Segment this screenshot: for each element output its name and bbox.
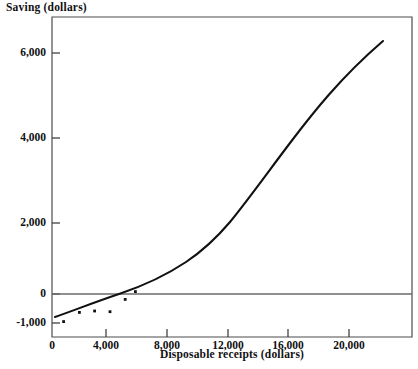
data-point	[78, 311, 81, 314]
saving-curve	[55, 41, 383, 317]
data-point	[134, 290, 137, 293]
y-tick-label-4000: 4,000	[2, 131, 46, 143]
data-point	[109, 310, 112, 313]
data-point	[124, 298, 127, 301]
x-tick-marks	[106, 329, 349, 337]
y-tick-marks	[52, 53, 60, 323]
y-tick-label-0: 0	[2, 287, 46, 299]
plot-area	[0, 0, 418, 369]
data-point	[93, 310, 96, 313]
x-axis-title: Disposable receipts (dollars)	[52, 348, 412, 360]
y-tick-label-minus-1000: -1,000	[0, 316, 46, 328]
y-tick-label-6000: 6,000	[2, 46, 46, 58]
data-points	[62, 290, 137, 323]
y-tick-label-2000: 2,000	[2, 216, 46, 228]
data-point	[62, 320, 65, 323]
chart-figure: Saving (dollars)	[0, 0, 418, 369]
